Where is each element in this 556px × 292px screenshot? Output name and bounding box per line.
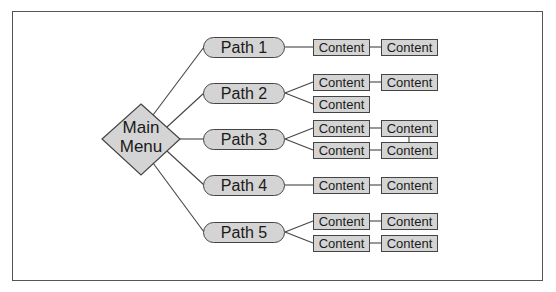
path-4-content-1-1: Content [313, 177, 370, 194]
path-5-content-2-2: Content [381, 235, 438, 252]
path-1-content-1-1: Content [313, 39, 370, 56]
path-4-node: Path 4 [203, 175, 285, 196]
path-2-node: Path 2 [203, 83, 285, 104]
path-3-content-1-1: Content [313, 120, 370, 137]
path-2-content-1-2: Content [381, 74, 438, 91]
path-3-content-1-2: Content [381, 120, 438, 137]
path-5-content-2-1: Content [313, 235, 370, 252]
path-1-node: Path 1 [203, 37, 285, 58]
path-3-content-2-2: Content [381, 142, 438, 159]
main-menu-label-line1: Main [102, 118, 180, 137]
path-2-content-2-1: Content [313, 96, 370, 113]
path-1-content-1-2: Content [381, 39, 438, 56]
path-2-content-1-1: Content [313, 74, 370, 91]
path-4-content-1-2: Content [381, 177, 438, 194]
main-menu-label: Main Menu [102, 118, 180, 156]
path-3-content-2-1: Content [313, 142, 370, 159]
path-5-node: Path 5 [203, 222, 285, 243]
path-3-node: Path 3 [203, 129, 285, 150]
path-5-content-1-1: Content [313, 213, 370, 230]
path-5-content-1-2: Content [381, 213, 438, 230]
main-menu-label-line2: Menu [102, 137, 180, 156]
